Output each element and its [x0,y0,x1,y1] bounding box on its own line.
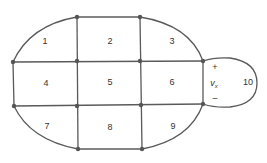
edge-col-2 [140,17,142,149]
node [75,104,79,108]
node [12,104,16,108]
mesh-label-3: 3 [169,36,174,46]
source-plus: + [212,62,217,72]
node [201,102,205,106]
edge-row-lower [14,104,203,106]
source-minus: – [212,93,217,103]
node [75,15,79,19]
source-variable-sub: x [214,83,219,89]
node [138,59,142,63]
node [75,59,79,63]
mesh-label-8: 8 [107,122,112,132]
edge-row-upper [13,61,203,62]
mesh-label-7: 7 [44,121,49,131]
edge-left [13,62,14,106]
source-variable: vx [210,78,219,88]
node [11,60,15,64]
mesh-label-9: 9 [170,121,175,131]
mesh-label-6: 6 [169,77,174,87]
network-diagram: 1 2 3 4 5 6 7 8 9 10 + – vx [0,0,267,163]
mesh-label-2: 2 [107,36,112,46]
node [139,103,143,107]
node [140,147,144,151]
node [138,15,142,19]
edge-col-1 [77,17,78,149]
node [201,59,205,63]
mesh-label-1: 1 [42,36,47,46]
mesh-label-4: 4 [43,78,48,88]
node [76,147,80,151]
mesh-label-10: 10 [243,77,253,87]
mesh-label-5: 5 [107,77,112,87]
